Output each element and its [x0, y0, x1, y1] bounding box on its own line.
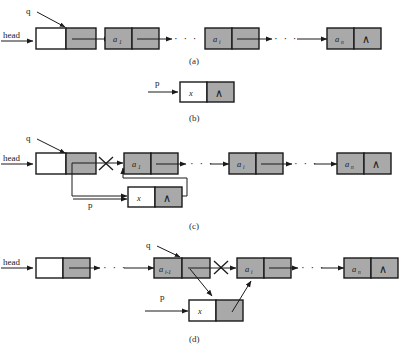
ellipsis-2-a: · · · — [274, 32, 298, 44]
null-symbol-a: ∧ — [362, 33, 370, 45]
node-ai-1-subscript-d: i-1 — [165, 269, 171, 275]
ellipsis-1-d: · · · — [103, 261, 127, 273]
node-x-data-d: x — [197, 306, 202, 316]
node-an-subscript-d: n — [358, 269, 361, 275]
label-q-c: q — [26, 133, 31, 143]
label-head-c: head — [3, 153, 20, 163]
node-an-subscript-a: n — [341, 39, 344, 45]
caption-c: (c) — [189, 221, 199, 231]
node-x-data-b: x — [188, 88, 193, 98]
null-symbol-d: ∧ — [379, 263, 387, 275]
ellipsis-2-c: · · · — [294, 157, 318, 169]
node-ai-data-d: a — [245, 264, 249, 274]
node-an-subscript-c: n — [351, 164, 354, 170]
node-ai-data-c: a — [237, 159, 241, 169]
node-a1-data-c: a — [132, 159, 136, 169]
ellipsis-2-d: · · · — [301, 261, 325, 273]
null-symbol-c: ∧ — [372, 158, 380, 170]
node-an-a: a n ∧ — [327, 28, 381, 49]
caption-a: (a) — [189, 56, 199, 66]
label-head-d: head — [3, 257, 20, 267]
node-a1-subscript-a: 1 — [119, 39, 122, 45]
label-q-a: q — [26, 6, 31, 16]
label-p-b: p — [155, 78, 160, 88]
label-q-d: q — [146, 240, 151, 250]
node-a1-data-a: a — [113, 34, 117, 44]
ellipsis-1-c: · · · — [190, 157, 214, 169]
ellipsis-1-a: · · · — [174, 32, 198, 44]
node-an-data-d: a — [352, 264, 356, 274]
label-head-a: head — [3, 30, 20, 40]
node-ai-data-a: a — [213, 34, 217, 44]
node-x-data-c: x — [136, 193, 141, 203]
node-a1-subscript-c: 1 — [138, 164, 141, 170]
node-an-data-a: a — [335, 34, 339, 44]
label-p-c: p — [88, 200, 93, 210]
node-an-c: a n ∧ — [337, 153, 391, 174]
node-x-b: x ∧ — [180, 82, 234, 102]
node-ai-c: a i — [229, 153, 292, 174]
caption-b: (b) — [189, 113, 200, 123]
node-an-d: a n ∧ — [344, 258, 398, 278]
node-an-data-c: a — [345, 159, 349, 169]
head-node-d — [36, 258, 100, 278]
caption-d: (d) — [189, 334, 200, 344]
label-p-d: p — [160, 292, 165, 302]
null-symbol-b: ∧ — [215, 87, 223, 99]
null-symbol-x-c: ∧ — [163, 192, 171, 204]
node-ai-1-data-d: a — [159, 264, 163, 274]
node-ai-d: a i — [237, 258, 298, 278]
node-a1-c: a 1 — [124, 153, 186, 174]
node-x-c: x ∧ — [128, 187, 182, 207]
linked-list-insertion-figure: head q a 1 · · · a i · · · — [0, 0, 403, 353]
